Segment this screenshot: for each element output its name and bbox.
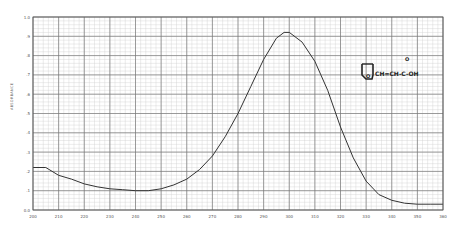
x-tick-label: 360 bbox=[435, 214, 449, 219]
x-tick-label: 340 bbox=[384, 214, 400, 219]
y-tick-label: .4 bbox=[20, 130, 30, 135]
x-tick-label: 330 bbox=[358, 214, 374, 219]
y-tick-label: 0.0 bbox=[20, 208, 30, 213]
x-tick-label: 320 bbox=[333, 214, 349, 219]
carbonyl-oxygen-label: O bbox=[405, 56, 409, 62]
y-axis-label: ABSORBANCE bbox=[10, 83, 14, 110]
y-tick-label: .7 bbox=[20, 72, 30, 77]
x-tick-label: 230 bbox=[102, 214, 118, 219]
y-tick-label: .6 bbox=[20, 92, 30, 97]
x-tick-label: 310 bbox=[307, 214, 323, 219]
x-tick-label: 240 bbox=[128, 214, 144, 219]
x-tick-label: 290 bbox=[256, 214, 272, 219]
x-tick-label: 350 bbox=[409, 214, 425, 219]
y-tick-label: .5 bbox=[20, 111, 30, 116]
x-tick-label: 280 bbox=[230, 214, 246, 219]
y-tick-label: .3 bbox=[20, 150, 30, 155]
x-tick-label: 250 bbox=[153, 214, 169, 219]
x-tick-label: 200 bbox=[25, 214, 41, 219]
y-tick-label: .8 bbox=[20, 53, 30, 58]
structure-chain-text: CH=CH-C-OH bbox=[375, 70, 419, 77]
x-tick-label: 270 bbox=[204, 214, 220, 219]
y-tick-label: 1.0 bbox=[20, 15, 30, 20]
x-tick-label: 220 bbox=[76, 214, 92, 219]
x-tick-label: 210 bbox=[51, 214, 67, 219]
x-tick-label: 300 bbox=[281, 214, 297, 219]
absorbance-chart bbox=[0, 0, 449, 233]
y-tick-label: .9 bbox=[20, 34, 30, 39]
x-tick-label: 260 bbox=[179, 214, 195, 219]
y-tick-label: .2 bbox=[20, 169, 30, 174]
y-tick-label: .1 bbox=[20, 188, 30, 193]
ring-oxygen-label: O bbox=[366, 73, 370, 79]
